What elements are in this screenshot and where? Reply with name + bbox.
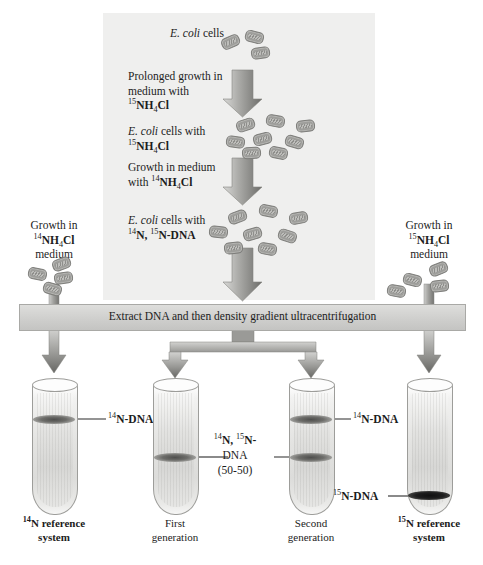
arrow-prolonged-growth	[223, 70, 262, 117]
cell-glyph	[242, 146, 262, 159]
hybrid-dna-callout: 14N, 15N- DNA (50-50)	[196, 433, 274, 479]
isotope-15-sup: 15	[128, 98, 136, 107]
label-14n-dna-right: 14N-DNA	[353, 412, 398, 427]
density-gradient-fill	[158, 393, 194, 507]
isotope-14-sup: 14	[128, 227, 136, 236]
isotope-15-sup: 15	[236, 432, 244, 441]
label-prolonged-growth: Prolonged growth in medium with 15NH4Cl	[128, 69, 223, 113]
prolonged-growth-line1: Prolonged growth in	[128, 69, 223, 84]
isotope-15-sup: 15	[128, 138, 136, 147]
dna-band-label-text: N-DNA	[116, 413, 153, 425]
caption-line1-text: N reference	[31, 517, 85, 529]
callout-line2: DNA	[196, 448, 274, 463]
ecoli-15n-line1: E. coli cells with	[128, 124, 205, 139]
tube-rim	[32, 378, 78, 392]
ecoli-15n-formula: 15NH4Cl	[128, 139, 205, 154]
formula-nh: NH	[417, 234, 434, 246]
extraction-bar: Extract DNA and then density gradient ul…	[19, 304, 466, 331]
label-growth-14n: Growth in medium with 14NH4Cl	[128, 160, 216, 189]
dna-band-label-text: N-DNA	[341, 490, 378, 502]
isotope-15-sup: 15	[398, 515, 406, 524]
ecoli-italic-text: E. coli	[170, 27, 200, 39]
arrow-bar-to-15n-tube	[417, 329, 441, 373]
tube-rim	[153, 378, 199, 392]
nitrogen-15-label: N-	[244, 434, 256, 446]
left-flask-line1: Growth in	[14, 218, 94, 233]
formula-nh: NH	[160, 176, 177, 188]
caption-second-generation: Second generation	[266, 516, 356, 544]
caption-line2: generation	[266, 530, 356, 544]
cell-glyph	[429, 279, 449, 292]
cell-glyph	[225, 135, 245, 149]
cell-glyph	[295, 119, 315, 132]
caption-first-generation: First generation	[130, 516, 220, 544]
caption-line2: generation	[130, 530, 220, 544]
caption-line1: 14N reference	[4, 516, 104, 530]
formula-cl: Cl	[63, 234, 75, 246]
caption-line2: system	[4, 530, 104, 544]
callout-line3: (50-50)	[196, 463, 274, 478]
tube-first-generation	[153, 378, 197, 513]
dna-suffix: DNA	[171, 229, 196, 241]
right-flask-line3: medium	[389, 247, 469, 262]
density-gradient-fill	[412, 393, 448, 507]
isotope-14-sup: 14	[23, 515, 31, 524]
dna-band	[154, 453, 196, 462]
tube-rim	[289, 378, 335, 392]
arrow-bar-to-14n-tube	[42, 329, 66, 373]
prolonged-growth-line2: medium with	[128, 84, 223, 99]
formula-nh: NH	[136, 140, 153, 152]
right-flask-line1: Growth in	[389, 218, 469, 233]
formula-cl: Cl	[158, 99, 170, 111]
growth-14n-line2: with 14NH4Cl	[128, 175, 216, 190]
isotope-15-sup: 15	[333, 488, 341, 497]
formula-cl: Cl	[158, 140, 170, 152]
formula-nh: NH	[136, 99, 153, 111]
label-ecoli-15n: E. coli cells with 15NH4Cl	[128, 124, 205, 153]
caption-line1-text: N reference	[406, 517, 460, 529]
isotope-14-sup: 14	[151, 174, 159, 183]
tube-rim	[407, 378, 453, 392]
density-gradient-fill	[37, 393, 73, 507]
prolonged-growth-formula: 15NH4Cl	[128, 98, 223, 113]
nitrogen-14-label: N,	[222, 434, 236, 446]
isotope-14-sup: 14	[108, 411, 116, 420]
cells-with-suffix: cells with	[158, 214, 205, 226]
nitrogen-15-dna-label: N-	[158, 229, 170, 241]
caption-14n-reference: 14N reference system	[4, 516, 104, 544]
cell-glyph	[208, 225, 228, 238]
tube-15n-reference	[407, 378, 451, 513]
tube-second-generation	[289, 378, 333, 513]
dna-band	[33, 415, 75, 424]
tube-body	[289, 384, 335, 515]
cell-glyph	[223, 241, 243, 254]
ecoli-hybrid-formula: 14N, 15N-DNA	[128, 228, 205, 243]
caption-line1: First	[130, 516, 220, 530]
isotope-14-sup: 14	[214, 432, 222, 441]
label-ecoli-hybrid: E. coli cells with 14N, 15N-DNA	[128, 213, 205, 242]
isotope-14-sup: 14	[353, 411, 361, 420]
formula-cl: Cl	[181, 176, 193, 188]
dna-band-upper	[290, 415, 332, 424]
bracket-split-to-generations	[162, 330, 324, 378]
isotope-14-sup: 14	[33, 232, 41, 241]
caption-line1: 15N reference	[379, 516, 479, 530]
ecoli-cells-suffix: cells	[200, 27, 224, 39]
right-flask-formula: 15NH4Cl	[389, 233, 469, 248]
ecoli-hybrid-line1: E. coli cells with	[128, 213, 205, 228]
tube-body	[32, 384, 78, 515]
caption-line2: system	[379, 530, 479, 544]
extraction-bar-label: Extract DNA and then density gradient ul…	[20, 310, 465, 322]
label-ecoli-cells: E. coli cells	[170, 26, 224, 41]
label-growth-15n-medium: Growth in 15NH4Cl medium	[389, 218, 469, 262]
arrow-to-extraction	[223, 248, 262, 301]
label-14n-dna-left: 14N-DNA	[108, 412, 153, 427]
isotope-15-sup: 15	[408, 232, 416, 241]
caption-15n-reference: 15N reference system	[379, 516, 479, 544]
density-gradient-fill	[294, 393, 330, 507]
formula-cl: Cl	[438, 234, 450, 246]
meselson-stahl-figure: E. coli cells Prolonged growth in medium…	[0, 0, 483, 565]
dna-band-label-text: N-DNA	[361, 413, 398, 425]
with-prefix: with	[128, 176, 151, 188]
label-15n-dna: 15N-DNA	[333, 489, 378, 504]
